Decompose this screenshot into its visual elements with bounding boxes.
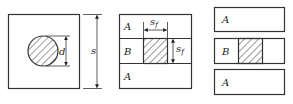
- panel-layered-dimensioned: A B A sf sf: [120, 15, 192, 89]
- panel-square-circle: d s: [9, 15, 103, 89]
- d-label: d: [59, 46, 65, 57]
- layer-label-a-bottom: A: [123, 71, 131, 82]
- separated-label-a-top: A: [221, 14, 229, 25]
- separated-label-b: B: [221, 46, 229, 57]
- layer-label-a-top: A: [123, 21, 131, 32]
- separated-hatched-square: [239, 39, 263, 64]
- sf-width-label: sf: [150, 16, 159, 29]
- separated-label-a-bottom: A: [221, 77, 229, 88]
- layer-label-b: B: [123, 46, 131, 57]
- s-label: s: [91, 45, 96, 56]
- panel-separated-layers: A B A: [215, 8, 285, 95]
- hatched-square: [144, 39, 168, 64]
- sf-height-label: sf: [176, 43, 185, 56]
- diagram: d s A B A sf sf A B A: [0, 0, 293, 104]
- hatched-circle: [28, 36, 58, 66]
